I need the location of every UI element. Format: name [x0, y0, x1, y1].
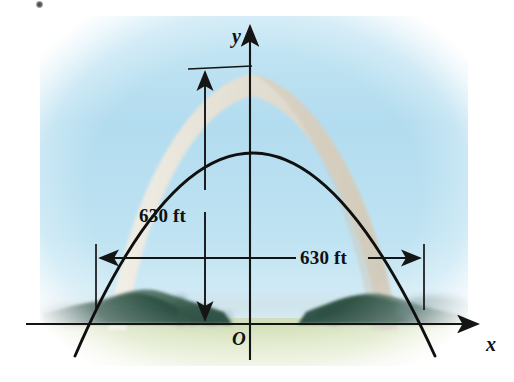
width-dimension-label: 630 ft [300, 248, 347, 267]
ground [40, 318, 468, 368]
height-dimension-label: 630 ft [139, 206, 186, 225]
x-axis-label: x [486, 334, 496, 354]
figure-canvas: 630 ft 630 ft y x O [0, 0, 514, 382]
sky [40, 16, 468, 324]
figure-svg [0, 0, 514, 382]
photograph [32, 16, 476, 368]
origin-label: O [232, 329, 246, 348]
y-axis-label: y [232, 26, 241, 46]
scan-artifact [36, 1, 43, 8]
